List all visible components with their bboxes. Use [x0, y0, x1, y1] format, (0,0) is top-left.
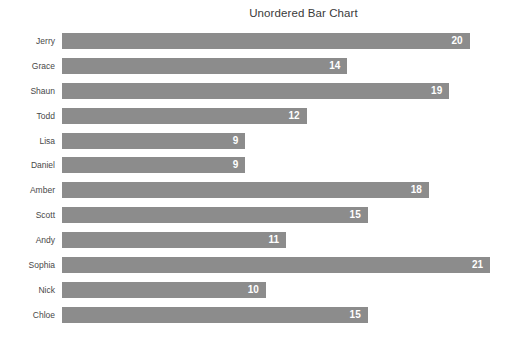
bar: 18 [62, 182, 429, 198]
bar-row: Jerry20 [0, 33, 517, 49]
bar-value-label: 18 [411, 182, 422, 198]
bar: 15 [62, 207, 368, 223]
category-label: Lisa [0, 133, 55, 149]
category-label: Amber [0, 182, 55, 198]
bar: 11 [62, 232, 286, 248]
category-label: Chloe [0, 307, 55, 323]
bar-row: Scott15 [0, 207, 517, 223]
bar-value-label: 20 [451, 33, 462, 49]
bar-value-label: 15 [350, 307, 361, 323]
bar-value-label: 12 [288, 108, 299, 124]
bar: 12 [62, 108, 307, 124]
bar-track: 12 [62, 108, 490, 124]
bar-track: 15 [62, 307, 490, 323]
bar-value-label: 10 [248, 282, 259, 298]
category-label: Todd [0, 108, 55, 124]
bar-row: Shaun19 [0, 83, 517, 99]
bar-track: 20 [62, 33, 490, 49]
category-label: Nick [0, 282, 55, 298]
bar-value-label: 9 [233, 133, 239, 149]
bar-value-label: 15 [350, 207, 361, 223]
bar-track: 10 [62, 282, 490, 298]
bar-track: 15 [62, 207, 490, 223]
bar-row: Nick10 [0, 282, 517, 298]
bar: 9 [62, 133, 245, 149]
bar-track: 9 [62, 157, 490, 173]
bar: 14 [62, 58, 347, 74]
bar-row: Sophia21 [0, 257, 517, 273]
bar-track: 14 [62, 58, 490, 74]
chart-title: Unordered Bar Chart [0, 7, 517, 19]
bar-track: 9 [62, 133, 490, 149]
bar-row: Chloe15 [0, 307, 517, 323]
bar-row: Amber18 [0, 182, 517, 198]
bar-row: Daniel9 [0, 157, 517, 173]
category-label: Jerry [0, 33, 55, 49]
bar: 20 [62, 33, 470, 49]
bar-value-label: 14 [329, 58, 340, 74]
bar-row: Lisa9 [0, 133, 517, 149]
bar-track: 21 [62, 257, 490, 273]
category-label: Grace [0, 58, 55, 74]
category-label: Andy [0, 232, 55, 248]
plot-area: Jerry20Grace14Shaun19Todd12Lisa9Daniel9A… [0, 33, 517, 332]
bar-row: Todd12 [0, 108, 517, 124]
bar-chart: Unordered Bar Chart Jerry20Grace14Shaun1… [0, 0, 517, 337]
bar-row: Andy11 [0, 232, 517, 248]
bar-track: 11 [62, 232, 490, 248]
bar-row: Grace14 [0, 58, 517, 74]
bar-value-label: 21 [472, 257, 483, 273]
category-label: Shaun [0, 83, 55, 99]
bar: 19 [62, 83, 449, 99]
bar-track: 18 [62, 182, 490, 198]
bar-value-label: 9 [233, 157, 239, 173]
bar-track: 19 [62, 83, 490, 99]
bar: 10 [62, 282, 266, 298]
category-label: Daniel [0, 157, 55, 173]
bar-value-label: 19 [431, 83, 442, 99]
category-label: Scott [0, 207, 55, 223]
bar-value-label: 11 [269, 232, 280, 248]
category-label: Sophia [0, 257, 55, 273]
bar: 21 [62, 257, 490, 273]
bar: 9 [62, 157, 245, 173]
bar: 15 [62, 307, 368, 323]
